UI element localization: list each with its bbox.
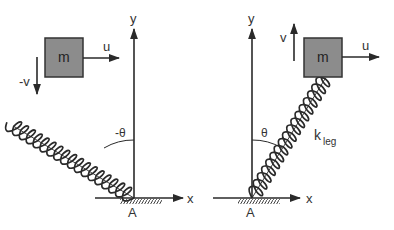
left-diagram: y x A -θ m u -v [3, 11, 194, 220]
right-diagram: y x A θ kleg m u v [213, 11, 379, 220]
u-label: u [362, 38, 369, 53]
spring-label-subscript: leg [323, 136, 336, 147]
y-axis-label: y [248, 11, 255, 26]
spring-label-k: k [314, 127, 322, 143]
mass-label: m [317, 49, 329, 65]
spring-constant-label: kleg [314, 127, 336, 147]
ground-hatch [238, 199, 280, 204]
origin-label: A [246, 205, 255, 220]
x-axis-label: x [306, 191, 313, 206]
angle-arc [104, 140, 134, 148]
mass-label: m [58, 49, 70, 65]
u-label: u [103, 39, 110, 54]
spring-mass-diagram: y x A -θ m u -v y x A [0, 0, 394, 230]
spring [246, 68, 336, 202]
origin-label: A [128, 205, 137, 220]
angle-arc [252, 140, 282, 148]
v-label: -v [19, 74, 30, 89]
x-axis-label: x [187, 191, 194, 206]
v-label: v [280, 30, 287, 45]
y-axis-label: y [130, 11, 137, 26]
angle-label: θ [261, 126, 268, 140]
angle-label: -θ [115, 126, 126, 140]
